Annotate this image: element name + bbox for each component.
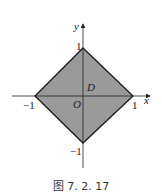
region-label: D	[86, 81, 95, 93]
tick-y-pos: 1	[76, 40, 82, 52]
diagram: y x 1 −1 1 −1 O D	[0, 0, 162, 195]
tick-y-neg: −1	[70, 145, 82, 157]
origin-label: O	[73, 98, 81, 110]
region-d	[35, 48, 133, 143]
tick-x-pos: 1	[132, 99, 138, 111]
tick-x-neg: −1	[23, 99, 35, 111]
x-axis-label: x	[143, 94, 149, 106]
figure-caption: 图 7. 2. 17	[0, 177, 162, 193]
y-axis-label: y	[73, 20, 79, 32]
